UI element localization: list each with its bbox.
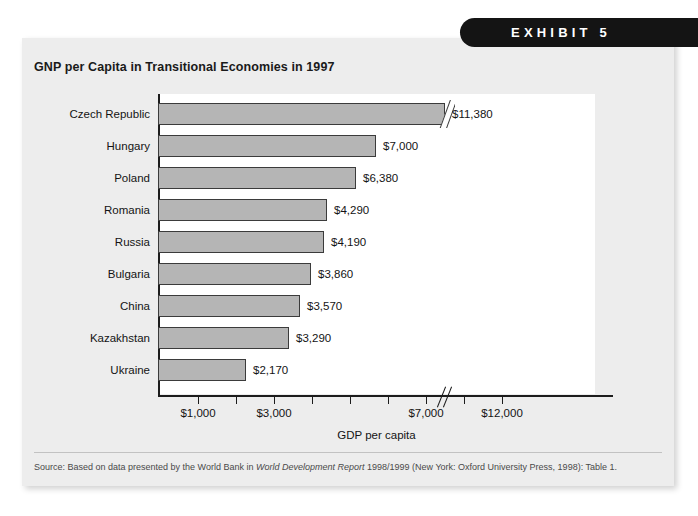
x-axis-title: GDP per capita [158, 429, 595, 441]
bar-value-label: $2,170 [253, 359, 288, 381]
category-label: Romania [20, 199, 150, 221]
x-axis-tick-label: $1,000 [180, 407, 215, 419]
exhibit-badge: EXHIBIT 5 [460, 18, 698, 47]
category-label: Czech Republic [20, 103, 150, 125]
bar-value-label: $4,290 [334, 199, 369, 221]
x-axis-tick-label: $12,000 [481, 407, 523, 419]
bar-row: Romania$4,290 [22, 199, 674, 221]
bar [158, 135, 376, 157]
source-title: World Development Report [256, 462, 365, 472]
bar-value-label: $6,380 [363, 167, 398, 189]
x-axis-tick [502, 397, 503, 404]
bar-row: Russia$4,190 [22, 231, 674, 253]
category-label: China [20, 295, 150, 317]
bar-chart: Czech Republic$11,380Hungary$7,000Poland… [22, 38, 674, 486]
category-label: Russia [20, 231, 150, 253]
x-axis-tick [350, 397, 351, 404]
bar-row: Ukraine$2,170 [22, 359, 674, 381]
x-axis-tick [312, 397, 313, 404]
footer-divider [34, 452, 662, 453]
bar-value-label: $3,570 [307, 295, 342, 317]
bar-value-label: $3,290 [296, 327, 331, 349]
x-axis-line [158, 395, 613, 397]
bar-row: Czech Republic$11,380 [22, 103, 674, 125]
x-axis-tick-label: $3,000 [256, 407, 291, 419]
source-note: Source: Based on data presented by the W… [34, 461, 664, 474]
x-axis-tick [388, 397, 389, 404]
bar [158, 295, 300, 317]
bar [158, 103, 445, 125]
bar-row: Hungary$7,000 [22, 135, 674, 157]
bar [158, 167, 356, 189]
x-axis-tick [274, 397, 275, 404]
bar-row: China$3,570 [22, 295, 674, 317]
x-axis-tick [464, 397, 465, 404]
source-prefix: Source: Based on data presented by the W… [34, 462, 256, 472]
exhibit-badge-label: EXHIBIT 5 [511, 25, 611, 40]
x-axis-tick [198, 397, 199, 404]
category-label: Poland [20, 167, 150, 189]
x-axis-tick [236, 397, 237, 404]
bar [158, 327, 289, 349]
bar [158, 199, 327, 221]
bar-value-label: $11,380 [452, 103, 493, 125]
bar [158, 263, 311, 285]
category-label: Ukraine [20, 359, 150, 381]
category-label: Kazakhstan [20, 327, 150, 349]
bar-value-label: $3,860 [318, 263, 353, 285]
bar-row: Kazakhstan$3,290 [22, 327, 674, 349]
bar [158, 359, 246, 381]
bar-value-label: $7,000 [383, 135, 418, 157]
category-label: Hungary [20, 135, 150, 157]
axis-break-icon [437, 386, 455, 408]
bar-row: Poland$6,380 [22, 167, 674, 189]
bar-row: Bulgaria$3,860 [22, 263, 674, 285]
x-axis-tick [426, 397, 427, 404]
bar [158, 231, 324, 253]
category-label: Bulgaria [20, 263, 150, 285]
source-suffix: 1998/1999 (New York: Oxford University P… [365, 462, 617, 472]
exhibit-card: GNP per Capita in Transitional Economies… [22, 38, 674, 486]
x-axis-tick-label: $7,000 [408, 407, 443, 419]
bar-value-label: $4,190 [331, 231, 366, 253]
